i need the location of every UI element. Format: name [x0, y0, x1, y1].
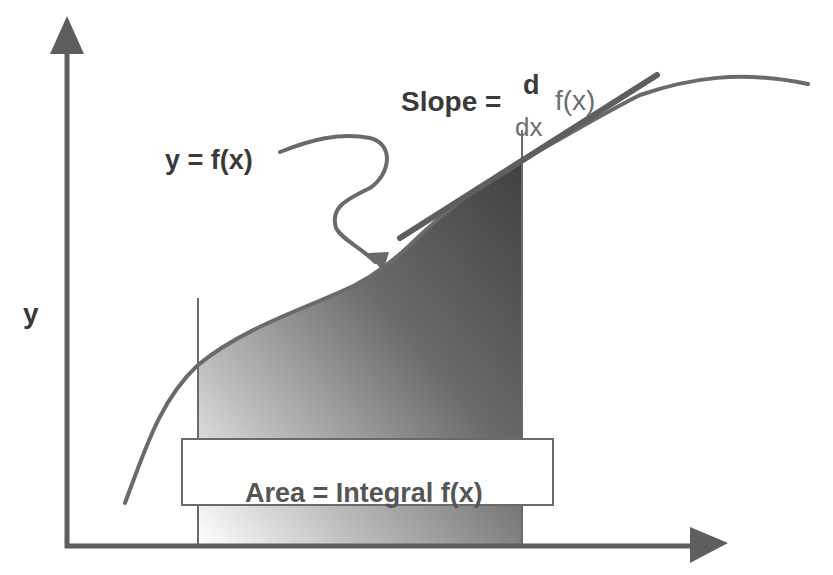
- slope-denominator: dx: [515, 114, 542, 140]
- area-label: Area = Integral f(x): [245, 480, 483, 507]
- slope-numerator: d: [523, 72, 540, 99]
- slope-function: f(x): [555, 87, 595, 115]
- y-axis-arrowhead-icon: [50, 16, 84, 54]
- x-axis-arrowhead-icon: [690, 527, 728, 563]
- function-label: y = f(x): [165, 147, 253, 174]
- slope-label: Slope =: [401, 88, 501, 116]
- y-axis-label: y: [23, 300, 39, 328]
- pointer-arrow-line: [280, 136, 387, 262]
